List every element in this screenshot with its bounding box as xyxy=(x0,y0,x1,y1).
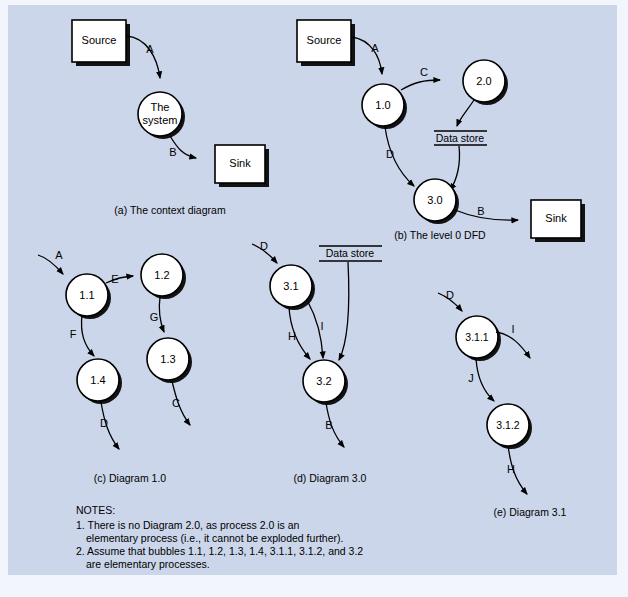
panel-c-process-1-4-label: 1.4 xyxy=(90,374,105,386)
panel-b-process-2-0[interactable]: 2.0 xyxy=(463,60,508,105)
panel-c-flow-c-label: C xyxy=(172,397,180,409)
panel-b-process-1-0-label: 1.0 xyxy=(375,99,390,111)
panel-a-process-label-line1: The xyxy=(151,101,170,113)
panel-c-flow-f-arrow xyxy=(82,315,95,356)
panel-b: Source A 1.0 C 2.0 xyxy=(297,20,585,242)
panel-e-process-3-1-2-label: 3.1.2 xyxy=(496,419,520,431)
panel-c: A 1.1 E 1.2 G 1.3 xyxy=(38,249,192,484)
panel-e-caption: (e) Diagram 3.1 xyxy=(494,506,567,518)
panel-e-flow-j-arrow xyxy=(476,358,494,401)
panel-b-process-2-0-label: 2.0 xyxy=(476,75,491,87)
panel-e-process-3-1-1[interactable]: 3.1.1 xyxy=(456,316,501,361)
panel-e-flow-i-label: I xyxy=(511,323,514,335)
panel-c-process-1-1-label: 1.1 xyxy=(79,289,94,301)
notes-line-3: 2. Assume that bubbles 1.1, 1.2, 1.3, 1.… xyxy=(76,545,363,557)
panel-c-process-1-3[interactable]: 1.3 xyxy=(147,338,192,383)
panel-d-flow-i-label: I xyxy=(320,320,323,332)
panel-d-flow-d-label: D xyxy=(260,240,268,252)
panel-c-process-1-1[interactable]: 1.1 xyxy=(66,274,111,319)
panel-e-flow-h-label: H xyxy=(507,463,515,475)
panel-c-flow-a-label: A xyxy=(55,249,63,261)
panel-a-process-the-system[interactable]: The system xyxy=(138,92,185,139)
notes-block: NOTES: 1. There is no Diagram 2.0, as pr… xyxy=(76,504,363,570)
panel-b-flow-d-label: D xyxy=(386,148,394,160)
panel-c-process-1-4[interactable]: 1.4 xyxy=(77,359,122,404)
panel-d-flow-store-to-3-2-arrow xyxy=(339,262,349,360)
panel-c-flow-e-label: E xyxy=(111,273,118,285)
panel-d-process-3-2-label: 3.2 xyxy=(316,375,331,387)
panel-c-flow-g-label: G xyxy=(150,311,159,323)
panel-a-sink-entity[interactable]: Sink xyxy=(215,145,269,187)
panel-c-process-1-2-label: 1.2 xyxy=(154,269,169,281)
panel-b-data-store-label: Data store xyxy=(436,132,485,144)
panel-a-sink-label: Sink xyxy=(229,157,251,169)
panel-c-flow-g-arrow xyxy=(159,297,164,332)
panel-e-process-3-1-2[interactable]: 3.1.2 xyxy=(487,404,532,449)
panel-a-caption: (a) The context diagram xyxy=(114,204,226,216)
panel-d-data-store-label: Data store xyxy=(326,247,375,259)
panel-b-flow-b-label: B xyxy=(477,205,484,217)
panel-b-caption: (b) The level 0 DFD xyxy=(394,229,486,241)
panel-c-flow-e-arrow xyxy=(106,276,133,283)
panel-b-sink-label: Sink xyxy=(545,212,567,224)
panel-e-process-3-1-1-label: 3.1.1 xyxy=(465,331,489,343)
panel-a-flow-a-arrow xyxy=(127,36,160,78)
panel-b-flow-c-arrow xyxy=(401,80,440,90)
panel-c-flow-f-label: F xyxy=(70,328,77,340)
panel-b-flow-b-arrow xyxy=(455,210,518,220)
panel-b-source-label: Source xyxy=(307,34,342,46)
panel-d: D 3.1 Data store H I xyxy=(252,240,382,484)
panel-e-flow-d-label: D xyxy=(446,289,454,301)
panel-b-flow-to-store-arrow xyxy=(457,100,474,126)
panel-d-process-3-1-label: 3.1 xyxy=(283,280,298,292)
dfd-figure: Source A The system B Sink (a) The conte xyxy=(0,0,628,597)
panel-d-caption: (d) Diagram 3.0 xyxy=(294,472,367,484)
panel-a-source-entity[interactable]: Source xyxy=(72,20,130,66)
panel-b-flow-a-label: A xyxy=(371,42,379,54)
panel-b-source-entity[interactable]: Source xyxy=(297,20,355,66)
panel-d-flow-b-label: B xyxy=(325,419,332,431)
panel-b-flow-store-to-3-0-arrow xyxy=(450,146,460,190)
panel-e-flow-i-arrow xyxy=(496,332,530,358)
panel-d-flow-h-label: H xyxy=(288,330,296,342)
panel-c-process-1-2[interactable]: 1.2 xyxy=(141,254,186,299)
panel-b-flow-c-label: C xyxy=(420,66,428,78)
notes-line-2: elementary process (i.e., it cannot be e… xyxy=(86,532,343,544)
panel-d-process-3-2[interactable]: 3.2 xyxy=(303,360,348,405)
panel-c-caption: (c) Diagram 1.0 xyxy=(94,472,167,484)
panel-d-data-store[interactable]: Data store xyxy=(319,246,382,261)
panel-a-flow-a-label: A xyxy=(146,43,154,55)
notes-line-4: are elementary processes. xyxy=(86,558,210,570)
diagram-canvas: Source A The system B Sink (a) The conte xyxy=(0,0,628,597)
panel-c-process-1-3-label: 1.3 xyxy=(160,353,175,365)
panel-e-flow-j-label: J xyxy=(468,372,474,384)
panel-a-source-label: Source xyxy=(82,34,117,46)
panel-a-flow-b-label: B xyxy=(169,146,176,158)
panel-a-process-label-line2: system xyxy=(143,114,178,126)
panel-c-flow-d-label: D xyxy=(100,417,108,429)
panel-a: Source A The system B Sink (a) The conte xyxy=(72,20,269,216)
notes-heading: NOTES: xyxy=(76,504,115,516)
notes-line-1: 1. There is no Diagram 2.0, as process 2… xyxy=(76,519,299,531)
panel-b-data-store[interactable]: Data store xyxy=(434,131,487,145)
panel-e: D 3.1.1 I J 3.1.2 H (e) Diagram 3. xyxy=(438,289,567,518)
panel-b-process-3-0-label: 3.0 xyxy=(427,194,442,206)
panel-b-sink-entity[interactable]: Sink xyxy=(531,200,585,242)
panel-b-process-1-0[interactable]: 1.0 xyxy=(362,84,407,129)
